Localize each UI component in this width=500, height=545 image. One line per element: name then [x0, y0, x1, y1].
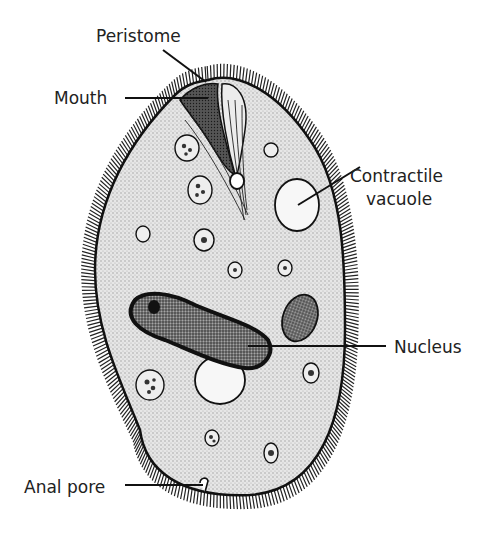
label-contractile-vacuole-line2: vacuole — [366, 189, 432, 209]
label-anal-pore: Anal pore — [24, 477, 105, 497]
paramecium-diagram: Peristome Mouth Contractile vacuole Nucl… — [0, 0, 500, 545]
label-peristome: Peristome — [96, 26, 181, 46]
forming-food-vacuole — [230, 173, 244, 189]
leader-peristome — [163, 50, 206, 82]
label-mouth: Mouth — [54, 88, 107, 108]
contractile-vacuole — [275, 179, 319, 231]
label-contractile-vacuole-line1: Contractile — [350, 166, 443, 186]
micronucleus — [148, 300, 160, 314]
label-nucleus: Nucleus — [394, 337, 462, 357]
